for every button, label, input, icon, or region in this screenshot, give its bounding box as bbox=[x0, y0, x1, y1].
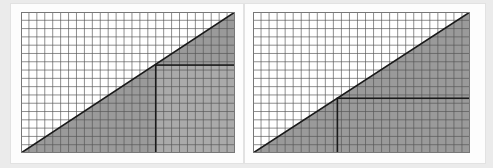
plot-area-right bbox=[253, 12, 470, 153]
chart-panel-left bbox=[11, 4, 243, 163]
plot-area-left bbox=[21, 12, 235, 153]
triangle-chart-left bbox=[21, 12, 235, 153]
chart-panel-right bbox=[245, 4, 485, 163]
triangle-chart-right bbox=[253, 12, 470, 153]
figure-container bbox=[0, 0, 493, 168]
